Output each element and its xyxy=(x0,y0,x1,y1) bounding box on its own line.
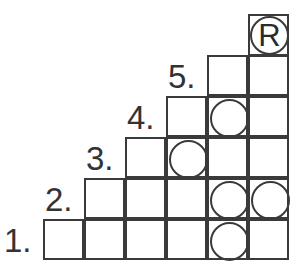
grid-cell[interactable] xyxy=(207,96,248,137)
row-label-3: 3. xyxy=(86,142,114,175)
grid-cell[interactable] xyxy=(207,137,248,178)
grid-cell[interactable] xyxy=(207,178,248,219)
grid-cell[interactable] xyxy=(248,178,289,219)
grid-cell[interactable] xyxy=(248,96,289,137)
row-label-1: 1. xyxy=(4,224,32,257)
registered-icon: R xyxy=(250,16,289,55)
grid-cell[interactable] xyxy=(207,55,248,96)
grid-cell[interactable] xyxy=(207,219,248,260)
circle-marker xyxy=(169,140,208,179)
grid-cell[interactable] xyxy=(84,219,125,260)
grid-cell[interactable] xyxy=(166,96,207,137)
registered-cell: R xyxy=(248,14,289,56)
grid-cell[interactable] xyxy=(166,219,207,260)
row-label-5: 5. xyxy=(168,60,196,93)
grid-cell[interactable] xyxy=(166,137,207,178)
grid-cell[interactable] xyxy=(43,219,84,260)
grid-cell[interactable] xyxy=(248,55,289,96)
row-label-4: 4. xyxy=(127,101,155,134)
circle-marker xyxy=(210,181,249,220)
grid-cell[interactable] xyxy=(166,178,207,219)
grid-cell[interactable] xyxy=(125,219,166,260)
grid-cell[interactable] xyxy=(84,178,125,219)
grid-cell[interactable] xyxy=(248,137,289,178)
grid-cell[interactable] xyxy=(248,219,289,260)
circle-marker xyxy=(210,222,249,261)
row-label-2: 2. xyxy=(45,183,73,216)
grid-cell[interactable] xyxy=(125,137,166,178)
circle-marker xyxy=(210,99,249,138)
circle-marker xyxy=(251,181,290,220)
grid-cell[interactable] xyxy=(125,178,166,219)
